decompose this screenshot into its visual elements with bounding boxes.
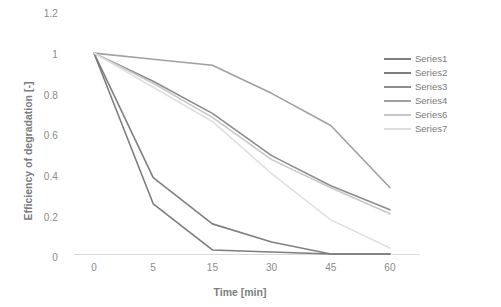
- legend: Series1Series2Series3Series4Series6Serie…: [384, 52, 447, 135]
- series-line-series6: [94, 53, 390, 214]
- legend-item-label: Series4: [415, 95, 447, 106]
- y-tick-label: 1.2: [28, 8, 58, 19]
- x-tick-label: 5: [133, 262, 173, 273]
- x-tick-label: 60: [370, 262, 410, 273]
- plot-area: [0, 0, 501, 307]
- legend-item-label: Series3: [415, 81, 447, 92]
- x-tick-label: 30: [252, 262, 292, 273]
- legend-swatch-icon: [384, 58, 411, 60]
- y-axis-title: Efficiency of degradation [-]: [22, 61, 34, 241]
- y-tick-label: 0: [28, 252, 58, 263]
- legend-swatch-icon: [384, 114, 411, 116]
- x-tick-label: 45: [311, 262, 351, 273]
- legend-item-label: Series7: [415, 123, 447, 134]
- legend-swatch-icon: [384, 128, 411, 130]
- legend-swatch-icon: [384, 86, 411, 88]
- legend-swatch-icon: [384, 72, 411, 74]
- legend-item[interactable]: Series6: [384, 108, 447, 121]
- series-line-series1: [94, 53, 390, 254]
- series-line-series3: [94, 53, 390, 210]
- y-tick-label: 1: [28, 49, 58, 60]
- legend-swatch-icon: [384, 100, 411, 102]
- x-tick-label: 15: [192, 262, 232, 273]
- series-lines: [94, 53, 390, 254]
- legend-item[interactable]: Series1: [384, 52, 447, 65]
- legend-item-label: Series1: [415, 53, 447, 64]
- series-line-series2: [94, 53, 390, 254]
- x-axis-title: Time [min]: [180, 286, 300, 298]
- series-line-series7: [94, 53, 390, 248]
- line-chart: 1.210.80.60.40.20 0515304560 Efficiency …: [0, 0, 501, 307]
- legend-item-label: Series2: [415, 67, 447, 78]
- legend-item[interactable]: Series2: [384, 66, 447, 79]
- legend-item[interactable]: Series7: [384, 122, 447, 135]
- legend-item-label: Series6: [415, 109, 447, 120]
- x-tick-label: 0: [74, 262, 114, 273]
- legend-item[interactable]: Series4: [384, 94, 447, 107]
- legend-item[interactable]: Series3: [384, 80, 447, 93]
